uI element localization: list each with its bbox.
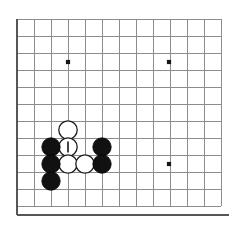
go-board-canvas[interactable]: [0, 0, 248, 230]
white-stone-marked[interactable]: [59, 138, 77, 156]
white-stone-disc[interactable]: [76, 155, 94, 173]
black-stone-disc[interactable]: [42, 155, 60, 173]
star-point-upper-left: [66, 60, 70, 64]
black-stone-disc[interactable]: [42, 172, 60, 190]
black-stone-c[interactable]: [42, 172, 60, 190]
white-stone-c[interactable]: [76, 155, 94, 173]
black-stone-b[interactable]: [42, 155, 60, 173]
board-background: [0, 0, 248, 230]
black-stone-a[interactable]: [42, 138, 60, 156]
white-stone-disc[interactable]: [59, 155, 77, 173]
black-stone-disc[interactable]: [93, 138, 111, 156]
star-point-upper-right: [167, 60, 171, 64]
black-stone-disc[interactable]: [93, 155, 111, 173]
white-stone-b[interactable]: [59, 155, 77, 173]
white-stone-a[interactable]: [59, 121, 77, 139]
black-stone-disc[interactable]: [42, 138, 60, 156]
star-point-lower-right: [167, 162, 171, 166]
white-stone-disc[interactable]: [59, 121, 77, 139]
black-stone-d[interactable]: [93, 138, 111, 156]
go-board-figure: [0, 0, 248, 230]
black-stone-e[interactable]: [93, 155, 111, 173]
